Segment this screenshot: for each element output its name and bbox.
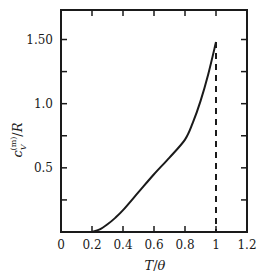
x-tick-label: 0.8: [175, 238, 194, 252]
x-tick-label: 1: [212, 238, 220, 252]
x-axis-label: T/θ: [145, 258, 166, 273]
chart: 00.20.40.60.811.2 0.51.01.50 T/θ cV(m)/R: [0, 0, 262, 274]
x-tick-label: 0.2: [82, 238, 101, 252]
plot-border: [61, 10, 247, 232]
y-tick-label: 0.5: [34, 161, 53, 175]
y-tick-labels: 0.51.01.50: [26, 33, 53, 175]
series-line: [92, 42, 216, 232]
x-tick-label: 0.4: [113, 238, 132, 252]
x-tick-label: 0: [57, 238, 65, 252]
x-tick-label: 0.6: [144, 238, 163, 252]
axis-ticks: [61, 10, 247, 232]
x-tick-labels: 00.20.40.60.811.2: [57, 238, 256, 252]
data-series: [92, 42, 247, 232]
y-tick-label: 1.0: [34, 97, 53, 111]
x-tick-label: 1.2: [237, 238, 256, 252]
y-tick-label: 1.50: [26, 33, 53, 47]
plot-frame: [61, 10, 247, 232]
y-axis-label: cV(m)/R: [9, 122, 28, 157]
